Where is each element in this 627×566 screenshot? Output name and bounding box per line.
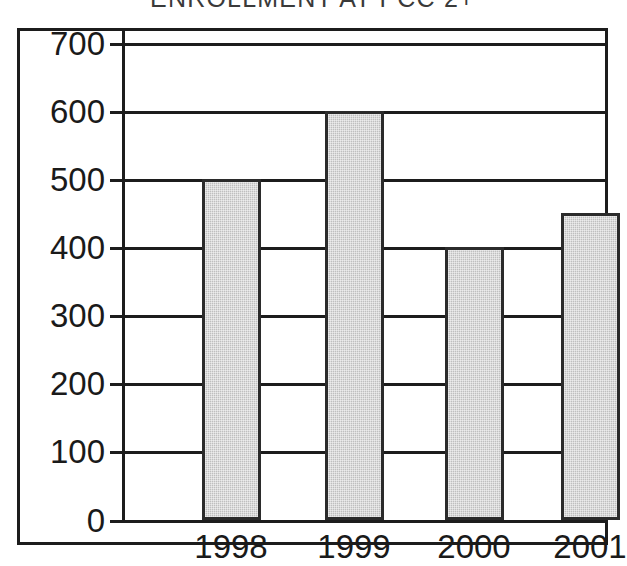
x-axis-label-2001: 2001 <box>553 529 626 565</box>
y-axis-label-200: 200 <box>50 367 105 400</box>
plot-area: 700 600 500 400 300 200 100 0 <box>123 43 608 520</box>
x-axis-label-1999: 1999 <box>317 529 390 565</box>
y-axis-label-500: 500 <box>50 163 105 196</box>
y-tick-300 <box>110 315 123 318</box>
x-axis-label-1998: 1998 <box>194 529 267 565</box>
y-tick-500 <box>110 179 123 182</box>
chart-frame: 700 600 500 400 300 200 100 0 1998 1999 … <box>17 28 608 545</box>
y-tick-600 <box>110 111 123 114</box>
y-axis-label-700: 700 <box>50 27 105 60</box>
y-axis-label-100: 100 <box>50 435 105 468</box>
y-axis-line <box>122 31 125 520</box>
y-axis-label-400: 400 <box>50 231 105 264</box>
x-axis-band: 1998 1999 2000 2001 <box>123 520 608 523</box>
y-axis-label-0: 0 <box>87 504 105 537</box>
bar-2001[interactable] <box>561 213 620 520</box>
y-tick-400 <box>110 247 123 250</box>
y-tick-100 <box>110 451 123 454</box>
chart-title: ENROLLMENT AT PCC 2+ <box>0 0 625 12</box>
y-axis-label-600: 600 <box>50 95 105 128</box>
bar-1998[interactable] <box>202 179 261 520</box>
bar-1999[interactable] <box>325 111 384 520</box>
y-tick-200 <box>110 383 123 386</box>
gridline-700 <box>123 43 608 46</box>
y-tick-0 <box>110 520 123 523</box>
bar-2000[interactable] <box>445 247 504 520</box>
y-axis-label-300: 300 <box>50 299 105 332</box>
y-tick-700 <box>110 43 123 46</box>
x-axis-label-2000: 2000 <box>437 529 510 565</box>
